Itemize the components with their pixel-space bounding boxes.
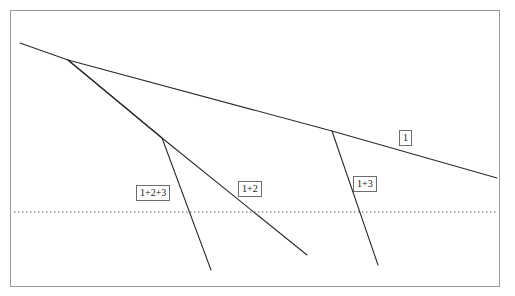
curve-1-2-3-path: [68, 60, 211, 270]
figure-root: 1 1+3 1+2 1+2+3: [0, 0, 515, 296]
curve-1-2-path: [68, 60, 307, 255]
curve-label-1-2-3: 1+2+3: [136, 185, 170, 201]
curve-1-3-path: [332, 131, 378, 265]
curve-label-1-2: 1+2: [238, 181, 262, 197]
curve-1-path: [20, 43, 497, 178]
curve-label-1: 1: [399, 130, 412, 146]
decline-curve-plot: [0, 0, 515, 296]
curve-label-1-3: 1+3: [353, 176, 377, 192]
